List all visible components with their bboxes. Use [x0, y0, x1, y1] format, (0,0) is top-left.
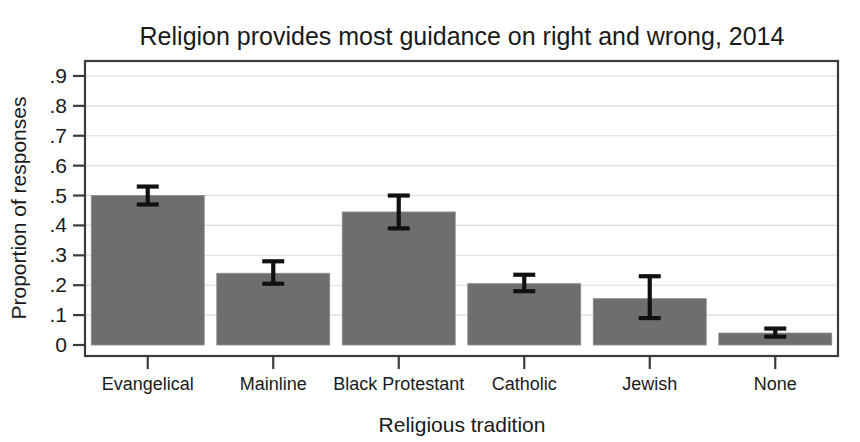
y-tick-label: .3 — [49, 243, 67, 266]
y-tick-label: .6 — [49, 154, 67, 177]
bar — [91, 196, 204, 345]
y-tick-label: .4 — [49, 213, 67, 236]
bar-chart: Religion provides most guidance on right… — [0, 0, 860, 442]
y-tick-label: .2 — [49, 273, 67, 296]
x-tick-label: Jewish — [622, 374, 677, 394]
x-tick-label: None — [754, 374, 797, 394]
y-tick-label: .9 — [49, 64, 67, 87]
y-tick-label: .7 — [49, 124, 67, 147]
bar — [342, 212, 455, 345]
x-tick-label: Mainline — [240, 374, 307, 394]
y-tick-label: 0 — [55, 333, 67, 356]
y-axis-label: Proportion of responses — [7, 97, 30, 320]
x-tick-label: Evangelical — [102, 374, 194, 394]
y-tick-label: .5 — [49, 184, 67, 207]
x-axis-label: Religious tradition — [379, 413, 546, 436]
x-tick-label: Catholic — [492, 374, 557, 394]
x-tick-label: Black Protestant — [333, 374, 464, 394]
y-tick-label: .8 — [49, 94, 67, 117]
chart-figure: Religion provides most guidance on right… — [0, 0, 860, 442]
chart-title: Religion provides most guidance on right… — [140, 22, 785, 50]
y-tick-label: .1 — [49, 303, 67, 326]
